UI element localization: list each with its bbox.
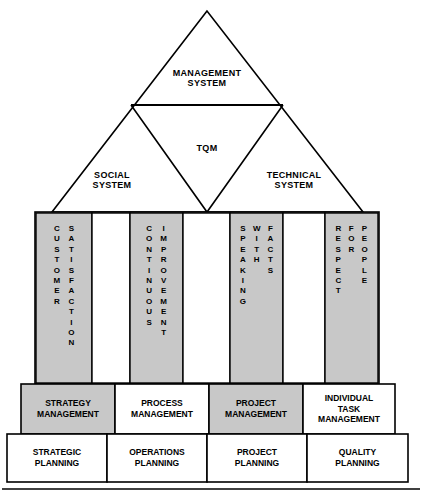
pillar-speaking-with-facts[interactable]: [230, 213, 283, 383]
cell-process-management[interactable]: [115, 384, 209, 434]
outer-triangle: [52, 11, 363, 212]
planning-row: [7, 434, 408, 482]
diagram-canvas: MANAGEMENT SYSTEM TQM SOCIAL SYSTEM TECH…: [0, 0, 422, 503]
cell-quality-planning[interactable]: [307, 434, 408, 482]
cell-project-planning[interactable]: [207, 434, 307, 482]
pyramid-outline: [52, 11, 363, 212]
management-row: [21, 384, 395, 434]
pillar-band: [35, 212, 379, 384]
cell-individual-task-management[interactable]: [303, 384, 395, 434]
cell-strategic-planning[interactable]: [7, 434, 107, 482]
pillar-continuous-improvement[interactable]: [130, 213, 183, 383]
pillar-gap-1: [92, 213, 130, 383]
pillar-customer-satisfaction[interactable]: [36, 213, 92, 383]
cell-project-management[interactable]: [209, 384, 303, 434]
pillar-respect-for-people[interactable]: [325, 213, 378, 383]
pillar-gap-3: [283, 213, 325, 383]
tqm-pyramid-diagram: [0, 0, 422, 503]
pillar-gap-2: [183, 213, 230, 383]
cell-strategy-management[interactable]: [21, 384, 115, 434]
cell-operations-planning[interactable]: [107, 434, 207, 482]
